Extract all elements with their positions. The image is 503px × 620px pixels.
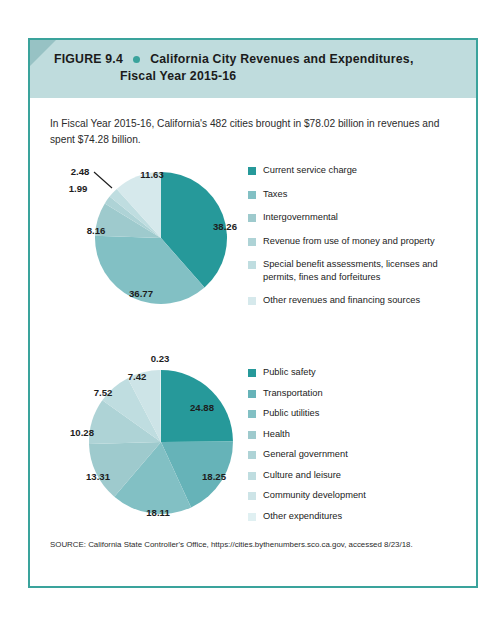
figure-body: In Fiscal Year 2015-16, California's 482…: [30, 98, 476, 560]
pie-slice-value-label: 7.42: [128, 371, 147, 382]
revenues-legend: Current service chargeTaxesIntergovernme…: [248, 164, 464, 318]
legend-swatch-icon: [248, 410, 256, 418]
pie-slice-value-label: 11.63: [140, 169, 163, 180]
legend-swatch-icon: [248, 167, 256, 175]
figure-title-text-1: California City Revenues and Expenditure…: [150, 52, 413, 66]
legend-swatch-icon: [248, 214, 256, 222]
legend-label: Culture and leisure: [263, 469, 341, 482]
pie-slice-value-label: 13.31: [86, 471, 110, 482]
expenditures-pie-chart: [48, 350, 260, 532]
bullet-dot-icon: [133, 56, 140, 63]
pie-slice-value-label: 38.26: [213, 221, 237, 232]
legend-swatch-icon: [248, 390, 256, 398]
legend-swatch-icon: [248, 451, 256, 459]
legend-swatch-icon: [248, 238, 256, 246]
legend-item: Current service charge: [248, 164, 464, 177]
legend-label: Other revenues and financing sources: [263, 294, 420, 307]
legend-label: Other expenditures: [263, 510, 342, 523]
pie-slice-value-label: 18.11: [146, 507, 169, 518]
figure-title-line-1: FIGURE 9.4 California City Revenues and …: [54, 51, 462, 68]
legend-label: Health: [263, 428, 290, 441]
legend-item: Public utilities: [248, 407, 464, 420]
legend-item: Intergovernmental: [248, 211, 464, 224]
legend-swatch-icon: [248, 191, 256, 199]
legend-label: Current service charge: [263, 164, 357, 177]
figure-number: FIGURE 9.4: [54, 52, 123, 66]
intro-paragraph: In Fiscal Year 2015-16, California's 482…: [50, 116, 454, 147]
pie-slice-value-label: 0.23: [151, 353, 170, 364]
legend-label: Public safety: [263, 366, 316, 379]
legend-swatch-icon: [248, 297, 256, 305]
figure-container: FIGURE 9.4 California City Revenues and …: [28, 38, 478, 588]
pie-slice-value-label: 1.99: [69, 183, 88, 194]
legend-item: General government: [248, 448, 464, 461]
legend-label: Public utilities: [263, 407, 319, 420]
legend-swatch-icon: [248, 472, 256, 480]
legend-swatch-icon: [248, 513, 256, 521]
corner-fold-decoration: [30, 40, 56, 66]
legend-item: Taxes: [248, 188, 464, 201]
legend-label: Taxes: [263, 188, 287, 201]
expenditures-chart-block: 24.8818.2518.1113.3110.287.527.420.23 Pu…: [30, 350, 476, 535]
source-note: SOURCE: California State Controller's Of…: [50, 539, 460, 550]
pie-slice-value-label: 2.48: [71, 166, 90, 177]
legend-label: Transportation: [263, 387, 323, 400]
legend-label: Intergovernmental: [263, 211, 338, 224]
legend-swatch-icon: [248, 492, 256, 500]
pie-slice-value-label: 36.77: [129, 288, 153, 299]
pie-slice-value-label: 24.88: [190, 402, 214, 413]
pie-slice-value-label: 18.25: [202, 471, 226, 482]
expenditures-pie-area: 24.8818.2518.1113.3110.287.527.420.23: [48, 350, 260, 532]
legend-item: Health: [248, 428, 464, 441]
pie-slice-value-label: 8.16: [87, 225, 106, 236]
figure-title-line-2: Fiscal Year 2015-16: [54, 68, 462, 85]
legend-swatch-icon: [248, 261, 256, 269]
legend-item: Other revenues and financing sources: [248, 294, 464, 307]
legend-item: Revenue from use of money and property: [248, 235, 464, 248]
figure-title-wrap: FIGURE 9.4 California City Revenues and …: [54, 51, 462, 85]
legend-label: Revenue from use of money and property: [263, 235, 435, 248]
expenditures-legend: Public safetyTransportationPublic utilit…: [248, 366, 464, 530]
legend-item: Public safety: [248, 366, 464, 379]
legend-label: General government: [263, 448, 348, 461]
legend-item: Transportation: [248, 387, 464, 400]
legend-label: Community development: [263, 489, 366, 502]
legend-item: Culture and leisure: [248, 469, 464, 482]
legend-item: Special benefit assessments, licenses an…: [248, 258, 464, 283]
revenues-pie-area: 38.2636.778.161.992.4811.63: [48, 158, 260, 340]
figure-header-band: FIGURE 9.4 California City Revenues and …: [30, 40, 476, 98]
pie-slice-value-label: 7.52: [94, 387, 113, 398]
legend-item: Other expenditures: [248, 510, 464, 523]
legend-label: Special benefit assessments, licenses an…: [263, 258, 464, 283]
legend-swatch-icon: [248, 369, 256, 377]
legend-item: Community development: [248, 489, 464, 502]
pie-slice-value-label: 10.28: [70, 427, 94, 438]
legend-swatch-icon: [248, 431, 256, 439]
revenues-chart-block: 38.2636.778.161.992.4811.63 Current serv…: [30, 158, 476, 343]
